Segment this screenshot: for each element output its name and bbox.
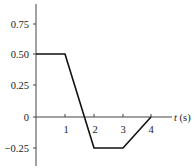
y-tick-label: 0 (24, 112, 29, 123)
x-tick-label: 1 (63, 124, 68, 135)
x-tick-label: 3 (120, 124, 125, 135)
y-tick-label: 0.75 (11, 19, 29, 30)
y-tick-label: 0.25 (11, 80, 29, 91)
line-chart: 0.75 0.50 0.25 0 −0.25 1 2 3 4 t (s) (0, 0, 196, 168)
y-tick-labels: 0.75 0.50 0.25 0 −0.25 (5, 19, 29, 154)
x-tick-label: 2 (92, 124, 97, 135)
y-tick-label: −0.25 (5, 143, 29, 154)
x-axis-label: t (s) (174, 112, 191, 124)
y-tick-label: 0.50 (11, 49, 29, 60)
x-tick-label: 4 (148, 124, 154, 135)
